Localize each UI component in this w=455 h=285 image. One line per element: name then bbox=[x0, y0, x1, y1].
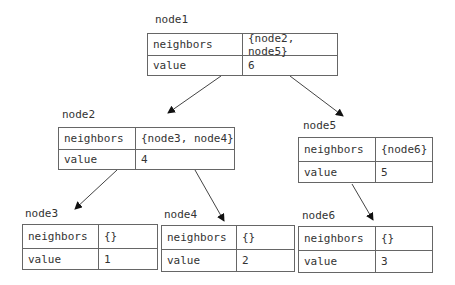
node2-label: node2 bbox=[62, 109, 95, 121]
node5-box: neighbors {node6} value 5 bbox=[298, 137, 433, 183]
node6-box: neighbors {} value 3 bbox=[298, 226, 433, 273]
node1-label: node1 bbox=[155, 14, 188, 26]
edge-node1-node5 bbox=[290, 76, 343, 116]
node5-value-key: value bbox=[299, 162, 376, 182]
node3-box: neighbors {} value 1 bbox=[22, 224, 158, 270]
node2-value-key: value bbox=[59, 150, 136, 169]
node4-box: neighbors {} value 2 bbox=[161, 225, 295, 272]
node3-value-value: 1 bbox=[99, 249, 157, 269]
node3-label: node3 bbox=[25, 208, 58, 220]
node1-neighbors-key: neighbors bbox=[148, 34, 243, 55]
node4-neighbors-value: {} bbox=[237, 226, 294, 249]
node5-label: node5 bbox=[303, 120, 336, 132]
node5-value-value: 5 bbox=[376, 162, 432, 182]
edge-node1-node2 bbox=[168, 76, 221, 113]
node6-value-value: 3 bbox=[376, 251, 432, 272]
node4-neighbors-key: neighbors bbox=[162, 226, 237, 249]
edge-node2-node4 bbox=[195, 170, 224, 221]
node1-box: neighbors {node2, node5} value 6 bbox=[147, 33, 338, 76]
node3-neighbors-key: neighbors bbox=[23, 225, 99, 248]
node2-value-value: 4 bbox=[136, 150, 234, 169]
node6-neighbors-key: neighbors bbox=[299, 227, 376, 250]
node2-neighbors-value: {node3, node4} bbox=[136, 128, 234, 149]
node4-value-value: 2 bbox=[237, 250, 294, 271]
node6-label: node6 bbox=[302, 210, 335, 222]
node2-box: neighbors {node3, node4} value 4 bbox=[58, 127, 235, 170]
node2-neighbors-key: neighbors bbox=[59, 128, 136, 149]
node5-neighbors-key: neighbors bbox=[299, 138, 376, 161]
node3-value-key: value bbox=[23, 249, 99, 269]
node5-neighbors-value: {node6} bbox=[376, 138, 432, 161]
edge-node2-node3 bbox=[75, 170, 117, 209]
edge-node5-node6 bbox=[352, 184, 373, 220]
node4-value-key: value bbox=[162, 250, 237, 271]
node1-value-value: 6 bbox=[243, 56, 337, 75]
node3-neighbors-value: {} bbox=[99, 225, 157, 248]
node1-neighbors-value: {node2, node5} bbox=[243, 34, 337, 55]
node6-value-key: value bbox=[299, 251, 376, 272]
node4-label: node4 bbox=[164, 209, 197, 221]
node1-value-key: value bbox=[148, 56, 243, 75]
node6-neighbors-value: {} bbox=[376, 227, 432, 250]
